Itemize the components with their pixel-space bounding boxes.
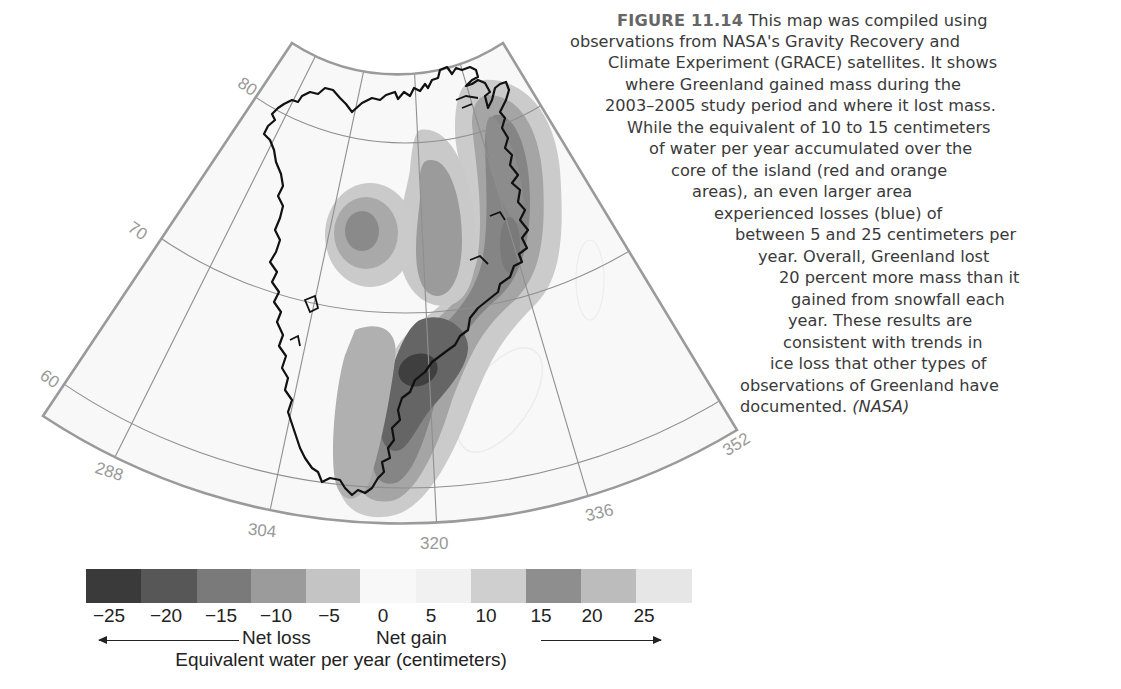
- figure-label: FIGURE 11.14: [617, 11, 743, 30]
- net-gain-arrow: [541, 640, 661, 641]
- caption-line-14: year. These results are: [788, 310, 972, 331]
- caption-line-5: While the equivalent of 10 to 15 centime…: [627, 117, 991, 138]
- caption-line-10: between 5 and 25 centimeters per: [735, 224, 1016, 245]
- caption-line-4: 2003–2005 study period and where it lost…: [605, 95, 996, 116]
- tick-minus-5: −5: [318, 605, 340, 627]
- tick-0: 0: [378, 605, 389, 627]
- caption-line-15: consistent with trends in: [783, 332, 982, 353]
- net-loss-arrow: [99, 640, 239, 641]
- caption-line-13: gained from snowfall each: [791, 289, 1005, 310]
- net-gain-label: Net gain: [376, 627, 447, 649]
- lon-label-336: 336: [583, 500, 615, 525]
- lat-label-60: 60: [36, 366, 62, 392]
- tick-15: 15: [530, 605, 551, 627]
- caption-line-2: Climate Experiment (GRACE) satellites. I…: [608, 52, 997, 73]
- colorbar-swatches: [86, 569, 698, 603]
- swatch-15: [526, 569, 581, 603]
- caption-line-1: observations from NASA's Gravity Recover…: [570, 31, 960, 52]
- tick-5: 5: [426, 605, 437, 627]
- swatch-20: [581, 569, 636, 603]
- swatch-5: [416, 569, 471, 603]
- tick-minus-25: −25: [93, 605, 125, 627]
- caption-line-16: ice loss that other types of: [770, 353, 987, 374]
- tick-20: 20: [581, 605, 602, 627]
- swatch-10: [471, 569, 526, 603]
- swatch-minus-20: [141, 569, 197, 603]
- figure-credit: (NASA): [852, 397, 909, 416]
- caption-line-12: 20 percent more mass than it: [779, 267, 1019, 288]
- lon-label-320: 320: [420, 534, 448, 553]
- caption-line-6: of water per year accumulated over the: [649, 138, 972, 159]
- caption-line-18: documented.: [740, 397, 847, 416]
- caption-line-8: areas), an even larger area: [692, 181, 912, 202]
- caption-line-7: core of the island (red and orange: [671, 160, 947, 181]
- caption-line-11: year. Overall, Greenland lost: [758, 246, 989, 267]
- lat-label-70: 70: [124, 218, 150, 244]
- units-label: Equivalent water per year (centimeters): [31, 649, 651, 671]
- tick-10: 10: [475, 605, 496, 627]
- caption-line-17: observations of Greenland have: [740, 375, 999, 396]
- tick-minus-15: −15: [205, 605, 237, 627]
- swatch-0: [360, 569, 416, 603]
- lon-label-304: 304: [247, 520, 277, 542]
- swatch-minus-10: [251, 569, 306, 603]
- swatch-25: [636, 569, 692, 603]
- swatch-minus-15: [197, 569, 251, 603]
- caption-line-3: where Greenland gained mass during the: [625, 74, 961, 95]
- net-loss-label: Net loss: [242, 627, 311, 649]
- tick-minus-10: −10: [260, 605, 292, 627]
- swatch-minus-25: [86, 569, 141, 603]
- caption-line-9: experienced losses (blue) of: [714, 203, 942, 224]
- lon-label-288: 288: [93, 458, 126, 485]
- colorbar-legend: −25 −20 −15 −10 −5 0 5 10 15 20 25 Net l…: [86, 569, 706, 689]
- swatch-minus-5: [306, 569, 360, 603]
- tick-minus-20: −20: [150, 605, 182, 627]
- caption-line-0: This map was compiled using: [748, 11, 987, 30]
- tick-25: 25: [633, 605, 654, 627]
